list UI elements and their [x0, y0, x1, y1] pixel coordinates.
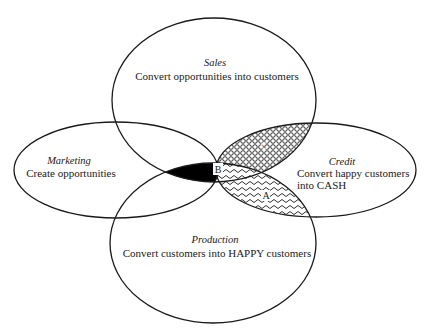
region-c-label: C — [261, 140, 268, 151]
production-description: Convert customers into HAPPY customers — [123, 247, 311, 259]
credit-description-line2: into CASH — [297, 179, 346, 191]
sales-title: Sales — [204, 57, 226, 68]
region-a-label: A — [262, 190, 270, 201]
production-title: Production — [191, 234, 239, 245]
marketing-title: Marketing — [46, 155, 91, 166]
venn-diagram: Sales Convert opportunities into custome… — [0, 0, 426, 333]
credit-description-line1: Convert happy customers — [297, 167, 409, 179]
sales-description: Convert opportunities into customers — [135, 70, 298, 82]
credit-title: Credit — [329, 156, 357, 167]
marketing-description: Create opportunities — [26, 167, 116, 179]
region-b-label: B — [215, 164, 222, 175]
